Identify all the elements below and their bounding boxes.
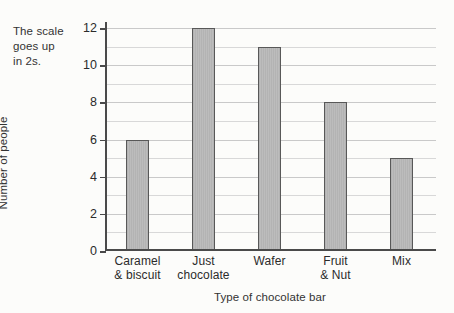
plot-area: 024681012 xyxy=(105,28,436,251)
bar-0 xyxy=(126,140,149,252)
plot-inner: 024681012 xyxy=(105,28,436,251)
y-tick-mark-12 xyxy=(100,28,106,30)
y-tick-label-10: 10 xyxy=(83,59,97,72)
y-tick-label-2: 2 xyxy=(90,208,97,221)
y-tick-label-4: 4 xyxy=(90,170,97,183)
y-tick-mark-2 xyxy=(100,214,106,216)
bar-2 xyxy=(258,47,281,251)
y-tick-mark-6 xyxy=(100,140,106,142)
category-label-4: Mix xyxy=(362,255,442,269)
chart-page: The scale goes up in 2s. Number of peopl… xyxy=(0,0,454,313)
scale-annotation-note: The scale goes up in 2s. xyxy=(13,24,93,69)
gridline-12 xyxy=(105,28,436,29)
x-axis-title: Type of chocolate bar xyxy=(105,291,435,303)
y-tick-label-0: 0 xyxy=(90,245,97,258)
y-tick-mark-0 xyxy=(100,251,106,253)
y-tick-label-12: 12 xyxy=(83,22,97,35)
y-tick-label-6: 6 xyxy=(90,133,97,146)
y-tick-mark-8 xyxy=(100,102,106,104)
x-axis-line xyxy=(105,249,436,251)
y-tick-mark-4 xyxy=(100,177,106,179)
bar-3 xyxy=(324,102,347,251)
y-tick-mark-10 xyxy=(100,65,106,67)
y-axis-title: Number of people xyxy=(0,88,9,238)
bar-1 xyxy=(192,28,215,251)
bar-4 xyxy=(390,158,413,251)
y-tick-label-8: 8 xyxy=(90,96,97,109)
y-axis-line xyxy=(105,22,107,251)
